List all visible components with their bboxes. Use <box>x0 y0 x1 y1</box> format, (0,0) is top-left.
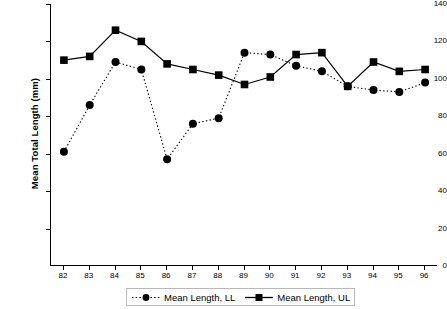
data-point-square <box>86 53 94 61</box>
x-tick-label: 87 <box>179 272 205 280</box>
data-point-circle <box>60 148 68 156</box>
x-tick-label: 92 <box>308 272 334 280</box>
x-tick-mark <box>166 266 167 270</box>
data-point-square <box>189 66 197 74</box>
x-tick-mark <box>424 266 425 270</box>
chart-legend: Mean Length, LL Mean Length, UL <box>126 288 355 306</box>
data-point-circle <box>215 114 223 122</box>
data-point-square <box>370 58 378 66</box>
x-tick-label: 95 <box>385 272 411 280</box>
data-point-circle <box>189 120 197 128</box>
legend-item-ul: Mean Length, UL <box>244 292 350 303</box>
x-tick-label: 83 <box>76 272 102 280</box>
x-tick-mark <box>244 266 245 270</box>
data-point-circle <box>112 58 120 66</box>
x-tick-mark <box>321 266 322 270</box>
data-point-circle <box>137 66 145 74</box>
data-point-square <box>138 38 146 46</box>
data-point-circle <box>266 51 274 59</box>
series-line <box>64 53 425 160</box>
series-plot <box>51 4 438 266</box>
x-tick-label: 96 <box>411 272 437 280</box>
x-tick-mark <box>115 266 116 270</box>
data-point-circle <box>163 155 171 163</box>
legend-key-dotted-circle-icon <box>131 292 161 303</box>
data-point-circle <box>370 86 378 94</box>
x-tick-mark <box>140 266 141 270</box>
chart-container: Mean Total Length (mm) 02040608010012014… <box>0 0 447 309</box>
data-point-square <box>267 73 275 81</box>
data-point-square <box>163 60 171 68</box>
x-tick-label: 93 <box>334 272 360 280</box>
x-tick-label: 85 <box>127 272 153 280</box>
data-point-circle <box>395 88 403 96</box>
data-point-square <box>60 56 68 64</box>
data-point-square <box>112 26 120 34</box>
x-tick-label: 86 <box>153 272 179 280</box>
data-point-square <box>318 49 326 57</box>
x-tick-label: 89 <box>231 272 257 280</box>
data-point-square <box>344 83 352 91</box>
x-tick-label: 84 <box>102 272 128 280</box>
x-tick-mark <box>373 266 374 270</box>
x-tick-label: 88 <box>205 272 231 280</box>
legend-label-ll: Mean Length, LL <box>164 292 235 303</box>
x-tick-label: 91 <box>282 272 308 280</box>
x-tick-label: 94 <box>360 272 386 280</box>
x-tick-mark <box>398 266 399 270</box>
x-tick-label: 82 <box>50 272 76 280</box>
series-ll <box>60 49 429 164</box>
data-point-circle <box>292 62 300 70</box>
x-tick-mark <box>218 266 219 270</box>
x-tick-label: 90 <box>256 272 282 280</box>
data-point-square <box>292 51 300 59</box>
legend-label-ul: Mean Length, UL <box>277 292 350 303</box>
data-point-circle <box>86 101 94 109</box>
x-tick-mark <box>192 266 193 270</box>
x-tick-mark <box>295 266 296 270</box>
x-tick-mark <box>89 266 90 270</box>
data-point-square <box>396 68 404 76</box>
x-tick-mark <box>347 266 348 270</box>
x-tick-mark <box>269 266 270 270</box>
x-tick-mark <box>63 266 64 270</box>
y-axis-title: Mean Total Length (mm) <box>29 24 40 244</box>
data-point-square <box>215 71 223 79</box>
data-point-circle <box>318 67 326 75</box>
data-point-circle <box>421 79 429 87</box>
plot-area <box>50 4 437 266</box>
data-point-circle <box>241 49 249 57</box>
data-point-square <box>421 66 429 74</box>
legend-key-solid-square-icon <box>244 292 274 303</box>
legend-item-ll: Mean Length, LL <box>131 292 235 303</box>
data-point-square <box>241 81 249 89</box>
